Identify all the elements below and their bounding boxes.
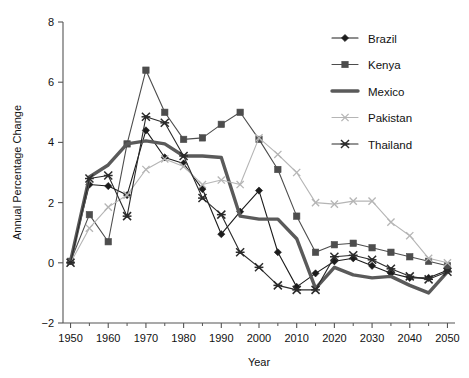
legend-item-thailand[interactable]: Thailand <box>332 139 412 151</box>
marker-star-core <box>182 154 185 157</box>
x-tick-label: 2030 <box>360 332 384 344</box>
marker-square <box>86 211 92 217</box>
marker-square <box>143 67 149 73</box>
marker-star-core <box>125 215 128 218</box>
marker-star-core <box>257 266 260 269</box>
marker-square <box>407 254 413 260</box>
x-tick-label: 1980 <box>171 332 195 344</box>
marker-square <box>342 61 348 67</box>
marker-star-core <box>107 174 110 177</box>
x-tick-label: 1970 <box>134 332 158 344</box>
marker-square <box>388 249 394 255</box>
marker-star <box>198 194 207 202</box>
marker-x <box>105 204 112 211</box>
marker-square <box>237 109 243 115</box>
y-tick-label: −2 <box>41 317 54 329</box>
x-tick-label: 1990 <box>209 332 233 344</box>
legend-item-label: Mexico <box>368 86 404 98</box>
marker-star <box>104 172 113 180</box>
legend-item-brazil[interactable]: Brazil <box>332 33 397 45</box>
marker-star-core <box>201 196 204 199</box>
marker-star <box>341 140 350 148</box>
marker-x <box>237 181 244 188</box>
marker-star-core <box>389 267 392 270</box>
marker-square <box>293 213 299 219</box>
marker-star <box>236 248 245 256</box>
marker-x <box>293 169 300 176</box>
chart-canvas: −202468195019601970198019902000201020202… <box>0 0 469 378</box>
marker-star-core <box>220 213 223 216</box>
x-tick-label: 1950 <box>58 332 82 344</box>
marker-square <box>199 135 205 141</box>
marker-star-core <box>352 254 355 257</box>
marker-square <box>312 249 318 255</box>
marker-square <box>162 109 168 115</box>
y-tick-label: 4 <box>48 136 54 148</box>
marker-diamond <box>105 182 112 189</box>
marker-star-core <box>446 270 449 273</box>
marker-diamond <box>341 34 348 41</box>
marker-star-core <box>427 278 430 281</box>
legend-item-label: Pakistan <box>368 112 412 124</box>
marker-star-core <box>408 275 411 278</box>
marker-x <box>387 219 394 226</box>
marker-diamond <box>274 249 281 256</box>
x-tick-label: 2000 <box>247 332 271 344</box>
marker-star-core <box>343 142 346 145</box>
y-tick-label: 8 <box>48 16 54 28</box>
y-tick-label: 2 <box>48 197 54 209</box>
marker-diamond <box>312 270 319 277</box>
x-tick-label: 2010 <box>284 332 308 344</box>
marker-square <box>218 121 224 127</box>
marker-x <box>218 176 225 183</box>
legend: BrazilKenyaMexicoPakistanThailand <box>332 33 412 151</box>
marker-square <box>369 245 375 251</box>
marker-star <box>217 211 226 219</box>
x-tick-label: 2020 <box>322 332 346 344</box>
marker-square <box>105 239 111 245</box>
x-axis-title: Year <box>248 356 271 368</box>
marker-square <box>180 136 186 142</box>
marker-star-core <box>295 288 298 291</box>
legend-item-label: Brazil <box>368 33 397 45</box>
marker-star <box>160 119 169 127</box>
marker-star <box>255 263 264 271</box>
x-tick-label: 2050 <box>435 332 459 344</box>
series-line <box>71 70 448 266</box>
series-line <box>71 138 448 263</box>
marker-star-core <box>333 255 336 258</box>
marker-star-core <box>370 258 373 261</box>
legend-item-mexico[interactable]: Mexico <box>332 86 404 98</box>
marker-square <box>350 240 356 246</box>
legend-item-label: Thailand <box>368 139 412 151</box>
marker-star-core <box>276 284 279 287</box>
y-axis-title: Annual Percentage Change <box>11 105 23 240</box>
y-tick-label: 6 <box>48 76 54 88</box>
marker-star-core <box>88 177 91 180</box>
marker-star-core <box>69 261 72 264</box>
y-tick-label: 0 <box>48 257 54 269</box>
marker-square <box>331 242 337 248</box>
marker-star <box>179 152 188 160</box>
marker-x <box>274 151 281 158</box>
marker-x <box>142 166 149 173</box>
legend-item-pakistan[interactable]: Pakistan <box>332 112 412 124</box>
marker-star-core <box>239 251 242 254</box>
marker-star-core <box>163 121 166 124</box>
x-tick-label: 1960 <box>96 332 120 344</box>
marker-x <box>406 232 413 239</box>
legend-item-kenya[interactable]: Kenya <box>332 59 401 71</box>
marker-star <box>273 281 282 289</box>
x-tick-label: 2040 <box>398 332 422 344</box>
marker-square <box>275 166 281 172</box>
series-line <box>71 130 448 287</box>
legend-item-label: Kenya <box>368 59 401 71</box>
marker-x <box>86 225 93 232</box>
line-chart: −202468195019601970198019902000201020202… <box>0 0 469 378</box>
marker-star-core <box>144 115 147 118</box>
marker-star-core <box>314 288 317 291</box>
